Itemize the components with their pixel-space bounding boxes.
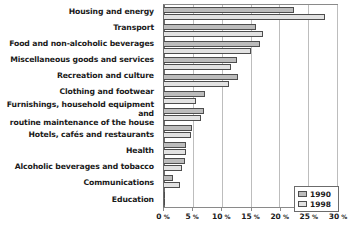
- category-label-line: Housing and energy: [69, 8, 154, 17]
- category-label: Food and non-alcoholic beverages: [0, 36, 158, 52]
- bar-row: [164, 39, 337, 56]
- bar-1990: [164, 142, 186, 148]
- bar-1998: [164, 165, 182, 171]
- bar-row: [164, 106, 337, 123]
- bar-row: [164, 72, 337, 89]
- category-label-line: Hotels, cafés and restaurants: [28, 131, 154, 140]
- x-tick: [221, 208, 222, 211]
- bar-row: [164, 156, 337, 173]
- x-tick-label: 30 %: [329, 212, 348, 221]
- bar-1990: [164, 108, 204, 114]
- category-label-line: Recreation and culture: [57, 72, 154, 81]
- bar-1990: [164, 158, 185, 164]
- bar-1998: [164, 64, 231, 70]
- bar-1990: [164, 125, 192, 131]
- category-label-line: Education: [112, 196, 154, 205]
- bar-1998: [164, 48, 251, 54]
- bar-1990: [164, 7, 294, 13]
- category-label: Recreation and culture: [0, 69, 158, 85]
- category-label: Clothing and footwear: [0, 85, 158, 101]
- bar-1998: [164, 14, 325, 20]
- category-label-line: Transport: [113, 24, 154, 33]
- x-tick: [251, 208, 252, 211]
- category-label-line: Health: [126, 147, 154, 156]
- category-label: Miscellaneous goods and services: [0, 52, 158, 68]
- x-tick-label: 25 %: [300, 212, 319, 221]
- bar-1990: [164, 175, 173, 181]
- bar-1998: [164, 132, 191, 138]
- legend-swatch-icon: [298, 191, 307, 197]
- bar-1998: [164, 115, 201, 121]
- category-label: Furnishings, household equipment androut…: [0, 101, 158, 128]
- category-label-line: Miscellaneous goods and services: [10, 56, 154, 65]
- bar-1998: [164, 149, 186, 155]
- legend-item-1990[interactable]: 1990: [298, 189, 335, 199]
- category-label: Transport: [0, 20, 158, 36]
- category-label: Hotels, cafés and restaurants: [0, 127, 158, 143]
- x-tick-label: 20 %: [270, 212, 289, 221]
- bar-row: [164, 140, 337, 157]
- category-label-column: Housing and energyTransportFood and non-…: [0, 4, 158, 208]
- legend: 19901998: [294, 186, 339, 212]
- bar-1998: [164, 98, 196, 104]
- bar-1990: [164, 91, 205, 97]
- bar-1990: [164, 41, 260, 47]
- x-tick-label: 15 %: [241, 212, 260, 221]
- x-tick-label: 10 %: [212, 212, 231, 221]
- category-label: Communications: [0, 176, 158, 192]
- bar-1990: [164, 192, 165, 198]
- x-tick-label: 5 %: [185, 212, 198, 221]
- bar-chart: Housing and energyTransportFood and non-…: [0, 0, 349, 245]
- x-tick: [163, 208, 164, 211]
- legend-label: 1998: [310, 200, 331, 209]
- plot-area: [163, 4, 338, 208]
- bar-1990: [164, 74, 238, 80]
- category-label: Education: [0, 192, 158, 208]
- legend-swatch-icon: [298, 201, 307, 207]
- category-label-line: Alcoholic beverages and tobacco: [15, 163, 154, 172]
- category-label-line: routine maintenance of the house: [0, 119, 154, 128]
- x-tick-label: 0 %: [156, 212, 169, 221]
- bar-row: [164, 89, 337, 106]
- bar-row: [164, 55, 337, 72]
- category-label-line: Food and non-alcoholic beverages: [9, 40, 154, 49]
- gridline: [337, 5, 338, 207]
- category-label: Health: [0, 144, 158, 160]
- bar-1998: [164, 182, 180, 188]
- bar-1998: [164, 31, 263, 37]
- bar-rows: [164, 5, 337, 207]
- category-label-line: Communications: [83, 179, 154, 188]
- legend-label: 1990: [310, 190, 331, 199]
- bar-row: [164, 123, 337, 140]
- bar-1990: [164, 57, 237, 63]
- category-label-line: Furnishings, household equipment and: [0, 101, 154, 119]
- category-label: Housing and energy: [0, 4, 158, 20]
- bar-1990: [164, 24, 256, 30]
- bar-row: [164, 5, 337, 22]
- x-tick: [192, 208, 193, 211]
- bar-1998: [164, 199, 165, 205]
- category-label-line: Clothing and footwear: [59, 88, 154, 97]
- x-tick: [280, 208, 281, 211]
- bar-row: [164, 22, 337, 39]
- bar-1998: [164, 81, 229, 87]
- legend-item-1998[interactable]: 1998: [298, 199, 335, 209]
- category-label: Alcoholic beverages and tobacco: [0, 160, 158, 176]
